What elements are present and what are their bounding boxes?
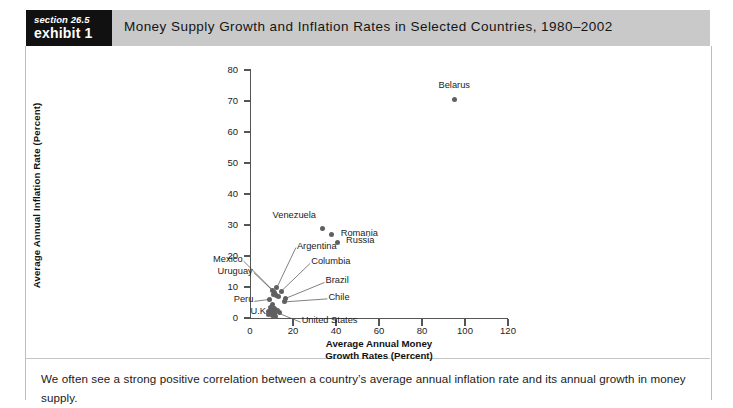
data-point — [276, 294, 281, 299]
point-label: Brazil — [325, 275, 348, 285]
y-tick — [244, 162, 251, 163]
data-point — [320, 226, 325, 231]
point-label: U.K. — [0, 306, 269, 316]
point-label: Mexico — [0, 254, 243, 264]
data-point — [271, 292, 276, 297]
y-tick-label: 60 — [216, 126, 240, 137]
y-tick-label: 30 — [216, 219, 240, 230]
point-label: Russia — [346, 235, 374, 245]
scatter-chart: Average Annual Inflation Rate (Percent) … — [0, 0, 733, 360]
y-tick-label: 50 — [216, 157, 240, 168]
y-tick-label: 10 — [216, 281, 240, 292]
point-label: Peru — [0, 294, 253, 304]
point-label: Chile — [328, 292, 349, 302]
y-tick — [244, 224, 251, 225]
y-tick — [244, 69, 251, 70]
x-tick-label: 100 — [450, 325, 480, 336]
y-tick-label: 80 — [216, 64, 240, 75]
point-label: United States — [302, 315, 358, 325]
x-tick-label: 120 — [493, 325, 523, 336]
y-tick — [244, 255, 251, 256]
point-label: Venezuela — [0, 210, 316, 220]
point-label: Belarus — [414, 80, 494, 90]
y-tick — [244, 317, 251, 318]
data-point — [452, 97, 457, 102]
x-tick-label: 80 — [407, 325, 437, 336]
data-point — [273, 314, 278, 319]
data-point — [279, 289, 284, 294]
y-tick — [244, 286, 251, 287]
x-tick-label: 40 — [321, 325, 351, 336]
x-tick-label: 20 — [278, 325, 308, 336]
y-tick — [244, 193, 251, 194]
x-tick-label: 60 — [364, 325, 394, 336]
point-label: Columbia — [311, 256, 350, 266]
x-tick-label: 0 — [235, 325, 265, 336]
point-label: Argentina — [297, 241, 337, 251]
y-tick-label: 40 — [216, 188, 240, 199]
y-tick-label: 70 — [216, 95, 240, 106]
exhibit-caption: We often see a strong positive correlati… — [41, 369, 691, 407]
y-tick — [244, 131, 251, 132]
data-point — [267, 297, 272, 302]
point-label: Uruguay — [0, 266, 253, 276]
y-tick — [244, 100, 251, 101]
